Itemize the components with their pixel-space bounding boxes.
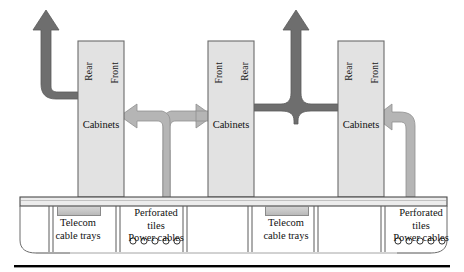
cabinet-3-caption: Cabinets [338, 119, 384, 130]
perforated-label-right-line2: tiles [387, 220, 455, 233]
bottom-rule [14, 265, 450, 267]
perforated-label-left: Perforated tiles Power cables [122, 207, 190, 245]
raised-floor-slab [20, 197, 447, 206]
perforated-label-right: Perforated tiles Power cables [387, 207, 455, 245]
cabinet-2-caption: Cabinets [208, 119, 254, 130]
telecom-label-right-line1: Telecom [256, 217, 316, 230]
cabinet-1-rear-label: Rear [84, 62, 94, 81]
cabinet-2-front-label: Front [214, 62, 224, 84]
perforated-label-left-line2: tiles [122, 220, 190, 233]
telecom-label-left-line2: cable trays [48, 230, 108, 243]
perforated-label-left-line1: Perforated [122, 207, 190, 220]
perforated-label-right-line1: Perforated [387, 207, 455, 220]
telecom-tray-swatch-left [57, 206, 101, 216]
hot-air-exhaust-left [33, 10, 81, 99]
telecom-label-left: Telecom cable trays [48, 217, 108, 242]
telecom-label-right-line2: cable trays [256, 230, 316, 243]
cabinet-3-rear-label: Rear [344, 62, 354, 81]
diagram-canvas: Rear Front Cabinets Front Rear Cabinets … [0, 0, 464, 272]
cabinet-1-front-label: Front [110, 62, 120, 84]
cabinet-1-caption: Cabinets [78, 119, 124, 130]
cabinet-3-front-label: Front [370, 62, 380, 84]
telecom-label-right: Telecom cable trays [256, 217, 316, 242]
hot-air-exhaust-center [254, 10, 338, 124]
power-cables-label-left: Power cables [122, 232, 190, 245]
telecom-label-left-line1: Telecom [48, 217, 108, 230]
power-cables-label-right: Power cables [387, 232, 455, 245]
telecom-tray-swatch-right [265, 206, 309, 216]
cabinet-2-rear-label: Rear [240, 62, 250, 81]
